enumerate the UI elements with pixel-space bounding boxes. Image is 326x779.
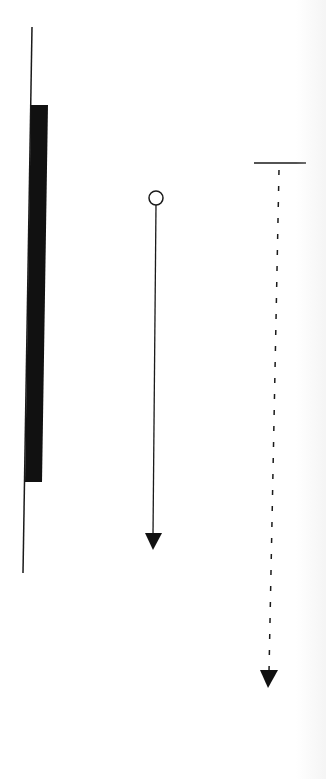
diagram-canvas	[0, 0, 326, 779]
activation-bar	[25, 105, 48, 482]
dashed-line	[269, 170, 279, 672]
arrowhead-down-icon	[145, 533, 162, 550]
message-line	[153, 205, 156, 535]
start-circle-icon	[149, 191, 163, 205]
arrowhead-down-icon	[260, 670, 278, 688]
scan-edge-shading	[296, 0, 326, 779]
found-message-arrow	[145, 191, 163, 550]
